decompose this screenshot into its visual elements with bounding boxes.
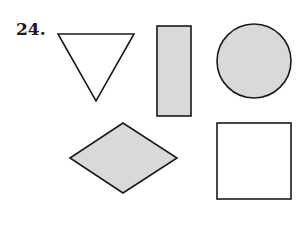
rectangle-shape <box>157 26 191 116</box>
triangle-shape <box>58 34 134 101</box>
rhombus-shape <box>70 123 177 193</box>
square-shape <box>217 123 291 199</box>
shapes-figure <box>0 0 308 228</box>
circle-shape <box>217 24 291 98</box>
